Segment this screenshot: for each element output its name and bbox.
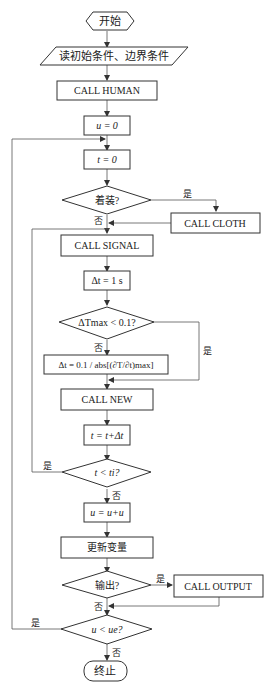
svg-text:u = 0: u = 0 — [96, 120, 118, 131]
dt-init-node: Δt = 1 s — [84, 271, 130, 290]
update-vars-node: 更新变量 — [61, 537, 153, 558]
yes-label: 是 — [183, 189, 192, 199]
yes-label: 是 — [43, 461, 52, 471]
read-input-node: 读初始条件、边界条件 — [40, 47, 188, 65]
call-human-node: CALL HUMAN — [57, 81, 157, 100]
flowchart: 开始 读初始条件、边界条件 CALL HUMAN u = 0 t = 0 着装?… — [0, 0, 274, 694]
svg-text:t = t+Δt: t = t+Δt — [91, 430, 124, 441]
u-increment-node: u = u+u — [84, 503, 130, 522]
yes-label: 是 — [203, 346, 212, 356]
t-init-node: t = 0 — [84, 150, 130, 169]
call-output-node: CALL OUTPUT — [174, 575, 263, 597]
svg-text:输出?: 输出? — [95, 579, 120, 591]
output-decision: 输出? — [62, 571, 151, 598]
svg-text:t = 0: t = 0 — [97, 154, 117, 165]
svg-text:CALL NEW: CALL NEW — [81, 394, 133, 405]
yes-label: 是 — [156, 574, 165, 584]
no-label: 否 — [112, 648, 121, 658]
call-signal-node: CALL SIGNAL — [61, 235, 153, 256]
svg-text:读初始条件、边界条件: 读初始条件、边界条件 — [59, 49, 169, 62]
dressed-decision: 着装? — [62, 186, 151, 214]
start-node: 开始 — [86, 12, 134, 30]
no-label: 否 — [94, 216, 103, 226]
svg-text:Δt = 0.1 / abs[(∂T/∂t)max]: Δt = 0.1 / abs[(∂T/∂t)max] — [59, 360, 154, 370]
dt-calc-node: Δt = 0.1 / abs[(∂T/∂t)max] — [44, 355, 168, 374]
u-decision: u < ue? — [61, 615, 152, 644]
svg-text:着装?: 着装? — [95, 194, 120, 206]
u-init-node: u = 0 — [84, 116, 130, 135]
svg-text:CALL OUTPUT: CALL OUTPUT — [184, 581, 252, 592]
no-label: 否 — [94, 602, 103, 612]
t-increment-node: t = t+Δt — [84, 425, 130, 445]
t-decision: t < ti? — [62, 459, 151, 487]
svg-text:终止: 终止 — [94, 664, 116, 677]
svg-text:t < ti?: t < ti? — [94, 467, 119, 478]
call-new-node: CALL NEW — [61, 389, 153, 410]
tmax-decision: ΔTmax < 0.1? — [59, 307, 154, 339]
svg-text:CALL CLOTH: CALL CLOTH — [184, 218, 246, 229]
svg-text:开始: 开始 — [99, 14, 121, 27]
svg-text:Δt = 1 s: Δt = 1 s — [91, 275, 122, 286]
svg-text:CALL HUMAN: CALL HUMAN — [74, 85, 140, 96]
end-node: 终止 — [84, 661, 127, 681]
svg-text:u < ue?: u < ue? — [91, 624, 122, 635]
no-label: 否 — [112, 491, 121, 501]
yes-label: 是 — [31, 618, 40, 628]
svg-text:ΔTmax < 0.1?: ΔTmax < 0.1? — [78, 317, 136, 328]
svg-text:u = u+u: u = u+u — [90, 507, 124, 518]
no-label: 否 — [94, 343, 103, 353]
svg-text:更新变量: 更新变量 — [87, 541, 127, 553]
svg-text:CALL SIGNAL: CALL SIGNAL — [75, 240, 140, 251]
call-cloth-node: CALL CLOTH — [171, 213, 260, 233]
